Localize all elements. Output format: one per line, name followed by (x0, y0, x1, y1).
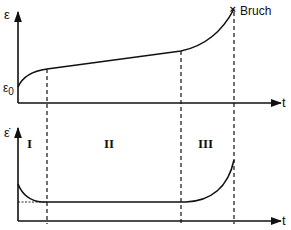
lower-y-label: ε̇ (4, 125, 11, 140)
strain-rate-curve (18, 160, 234, 202)
epsilon-zero-label: ε0 (3, 81, 14, 97)
upper-x-label: t (282, 95, 286, 110)
stage-boundaries (47, 12, 234, 224)
strain-curve (18, 9, 234, 87)
stage-label-1: I (27, 136, 32, 151)
lower-plot: ε̇ t I II III (4, 125, 286, 228)
upper-y-label: ε (4, 7, 10, 22)
creep-curve-diagram: ε ε0 t × Bruch ε̇ t I II III (0, 0, 291, 230)
upper-plot: ε ε0 t × Bruch (3, 3, 286, 110)
stage-label-2: II (104, 136, 114, 151)
rupture-label: Bruch (240, 4, 271, 18)
stage-label-3: III (198, 136, 213, 151)
lower-x-label: t (282, 213, 286, 228)
rupture-marker: × (230, 3, 236, 15)
